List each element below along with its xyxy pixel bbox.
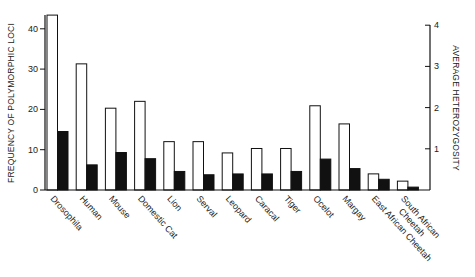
bar-polymorphic-loci-east-african-cheetah [368, 174, 379, 190]
bar-polymorphic-loci-leopard [222, 153, 233, 190]
category-label: Margay [341, 194, 369, 223]
bar-heterozygosity-east-african-cheetah [379, 179, 390, 190]
bar-polymorphic-loci-drosophila [47, 15, 58, 190]
category-label: Leopard [224, 194, 254, 225]
category-label: Ocelot [311, 194, 336, 220]
right-tick-label: 3 [434, 61, 439, 71]
bar-polymorphic-loci-margay [339, 124, 350, 190]
left-axis-ticks: 010203040 [28, 24, 45, 195]
category-label: Tiger [282, 194, 303, 216]
left-tick-label: 10 [28, 145, 38, 155]
bar-polymorphic-loci-lion [164, 142, 175, 190]
bar-polymorphic-loci-mouse [105, 108, 116, 190]
bar-polymorphic-loci-ocelot [310, 106, 321, 190]
bar-polymorphic-loci-tiger [281, 148, 292, 190]
bar-polymorphic-loci-caracal [251, 148, 262, 190]
bar-heterozygosity-margay [350, 169, 361, 190]
bar-heterozygosity-lion [174, 171, 185, 190]
bar-heterozygosity-drosophila [58, 131, 69, 190]
bar-chart: 010203040 1234 FREQUENCY OF POLYMORPHIC … [0, 0, 475, 277]
bar-heterozygosity-tiger [291, 171, 302, 190]
bar-heterozygosity-caracal [262, 174, 273, 190]
bar-polymorphic-loci-domestic-cat [135, 101, 146, 190]
bar-polymorphic-loci-human [76, 64, 87, 190]
bar-heterozygosity-serval [204, 175, 215, 190]
category-label: Mouse [107, 194, 133, 221]
bar-heterozygosity-leopard [233, 174, 244, 190]
left-tick-label: 40 [28, 24, 38, 34]
y-axis-title: FREQUENCY OF POLYMORPHIC LOCI [6, 23, 16, 183]
bar-polymorphic-loci-serval [193, 142, 204, 190]
left-tick-label: 0 [33, 185, 38, 195]
category-label: Caracal [253, 194, 281, 224]
right-axis-ticks: 1234 [425, 20, 439, 154]
category-labels: DrosophilaHumanMouseDomestic CatLionServ… [49, 194, 443, 264]
bar-heterozygosity-mouse [116, 153, 127, 190]
bars-layer [47, 15, 418, 190]
y2-axis-title: AVERAGE HETEROZYGOSITY [451, 45, 461, 171]
category-label: Human [78, 194, 105, 222]
bar-heterozygosity-human [87, 165, 98, 190]
right-tick-label: 2 [434, 103, 439, 113]
bar-heterozygosity-domestic-cat [145, 159, 156, 190]
category-label: Serval [195, 194, 220, 220]
left-tick-label: 20 [28, 104, 38, 114]
bar-heterozygosity-ocelot [320, 159, 331, 190]
left-tick-label: 30 [28, 64, 38, 74]
right-tick-label: 1 [434, 144, 439, 154]
bar-polymorphic-loci-south-african-cheetah [397, 181, 408, 190]
right-tick-label: 4 [434, 20, 439, 30]
category-label: Lion [165, 194, 184, 213]
